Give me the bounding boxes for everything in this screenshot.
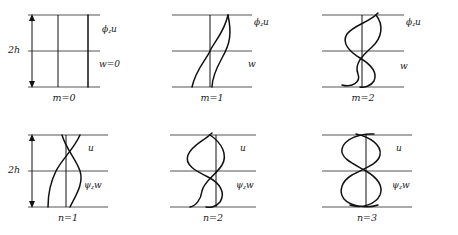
panel-n3: u ψzw n=3 [304, 117, 458, 235]
mode-shape-figure: 2h ϕzu w=0 m=0 ϕzu w m=1 ϕzu w m=2 [0, 0, 458, 235]
thickness-label: 2h [8, 165, 20, 175]
curve-label-psi-z-w: ψzw [392, 181, 410, 191]
curve-label-u: u [240, 144, 246, 153]
curve-label-phi-z-u: ϕzu [254, 18, 269, 28]
curve-label-w: w [248, 60, 256, 69]
curve-label-psi-z-w: ψzw [236, 181, 254, 191]
curve-u [187, 133, 222, 207]
caption-m0: m=0 [28, 93, 100, 103]
caption-n3: n=3 [322, 213, 412, 223]
curve-label-phi-z-u: ϕzu [102, 25, 117, 35]
caption-m1: m=1 [172, 93, 252, 103]
curve-label-phi-z-u: ϕzu [406, 18, 421, 28]
panel-n2: u ψzw n=2 [152, 117, 304, 235]
caption-n2: n=2 [170, 213, 256, 223]
curve-label-u: u [396, 144, 402, 153]
curve-label-w-zero: w=0 [99, 60, 120, 69]
panel-n1: 2h u ψzw n=1 [0, 117, 152, 235]
thickness-label: 2h [8, 45, 20, 55]
caption-m2: m=2 [322, 93, 404, 103]
panel-m1: ϕzu w m=1 [152, 0, 304, 117]
curve-psi-z-w [341, 134, 380, 207]
curve-label-w: w [400, 62, 408, 71]
panel-m2: ϕzu w m=2 [304, 0, 458, 117]
curve-label-psi-z-w: ψzw [84, 181, 102, 191]
curve-label-u: u [88, 144, 94, 153]
caption-n1: n=1 [28, 213, 108, 223]
panel-m0: 2h ϕzu w=0 m=0 [0, 0, 152, 117]
